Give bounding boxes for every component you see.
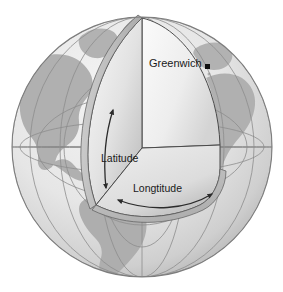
label-greenwich: Greenwich xyxy=(149,57,202,69)
globe-diagram: Greenwich Latitude Longtitude xyxy=(0,0,283,292)
greenwich-point-marker xyxy=(205,64,210,69)
label-longitude: Longtitude xyxy=(133,182,182,194)
globe-illustration xyxy=(0,0,283,292)
label-latitude: Latitude xyxy=(101,152,138,164)
